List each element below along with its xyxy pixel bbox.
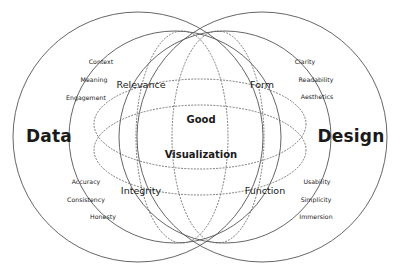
inner-circle-left [69,31,281,243]
outer-circle-design [137,12,387,262]
outer-circle-data [13,12,263,262]
inner-circle-right [119,31,331,243]
dotted-ellipse-horizontal-top [94,105,306,195]
dotted-ellipse-horizontal-bottom [94,79,306,169]
venn-diagram: Data Design Relevance Form Integrity Fun… [0,0,400,274]
venn-circles-svg [0,0,400,274]
